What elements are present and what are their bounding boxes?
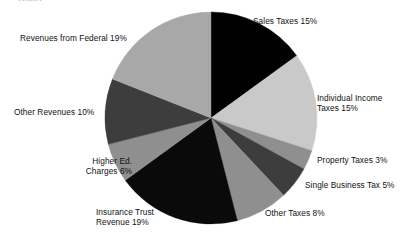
slice-label-single-business-tax: Single Business Tax 5% xyxy=(305,180,395,190)
slice-label-higher-ed-charges: Higher Ed. Charges 6% xyxy=(54,156,132,177)
slice-label-sales-taxes: Sales Taxes 15% xyxy=(253,16,317,26)
pie-chart-figure: Chart Sales Taxes 15% Individual Income … xyxy=(0,0,416,248)
slice-label-other-taxes: Other Taxes 8% xyxy=(265,208,325,218)
slice-label-property-taxes: Property Taxes 3% xyxy=(317,155,387,165)
slice-label-individual-income-taxes: Individual Income Taxes 15% xyxy=(317,93,382,114)
slice-label-other-revenues: Other Revenues 10% xyxy=(14,107,94,117)
slice-label-revenues-from-federal: Revenues from Federal 19% xyxy=(20,33,127,43)
slice-label-insurance-trust-revenue: Insurance Trust Revenue 19% xyxy=(96,207,154,228)
